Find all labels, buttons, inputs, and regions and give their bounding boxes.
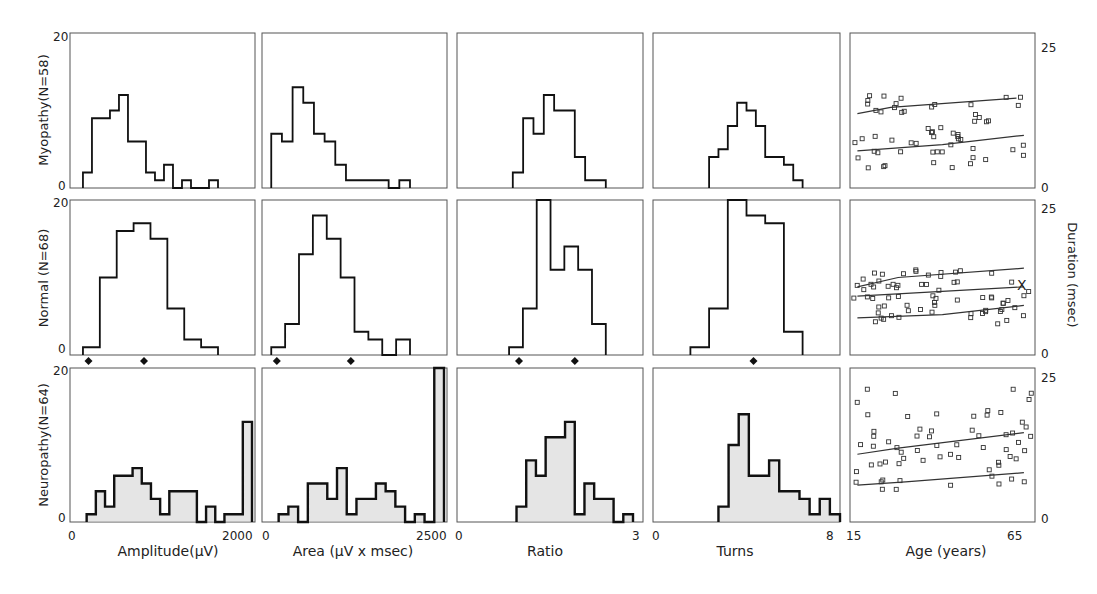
right-axis-label: Duration (msec) <box>1065 222 1080 327</box>
range-marker-icon <box>140 357 148 365</box>
y-tick-20-row1: 20 <box>53 30 68 44</box>
y-tick-0-row3: 0 <box>58 511 66 525</box>
x-label-turns: Turns <box>716 543 754 559</box>
panel-normal-turns <box>653 200 840 365</box>
panel-neuropathy-turns <box>653 368 840 522</box>
panel-myopathy-ratio <box>457 33 643 188</box>
right-tick-25-row1: 25 <box>1041 41 1056 55</box>
panel-normal-ratio <box>457 200 643 365</box>
range-marker-icon <box>750 357 758 365</box>
histogram-grid-figure: Myopathy(N=58) Normal (N=68) Neuropathy(… <box>0 0 1097 594</box>
right-tick-0-row1: 0 <box>1041 181 1049 195</box>
y-tick-20-row3: 20 <box>53 364 68 378</box>
range-marker-icon <box>85 357 93 365</box>
panel-neuropathy-age <box>850 368 1035 522</box>
panel-neuropathy-ratio <box>457 368 643 522</box>
panel-normal-amplitude <box>70 200 255 365</box>
panel-neuropathy-amplitude <box>70 368 255 522</box>
panel-normal-area <box>262 200 447 365</box>
x-tick-age-max: 65 <box>1007 529 1022 543</box>
panel-myopathy-turns <box>653 33 840 188</box>
range-marker-icon <box>347 357 355 365</box>
x-tick-turns-max: 8 <box>826 529 834 543</box>
x-tick-ratio-min: 0 <box>455 529 463 543</box>
x-label-ratio: Ratio <box>527 543 563 559</box>
y-tick-0-row2: 0 <box>58 342 66 356</box>
panel-myopathy-amplitude <box>70 33 255 188</box>
row-label-neuropathy: Neuropathy(N=64) <box>36 383 51 507</box>
row-label-normal: Normal (N=68) <box>36 229 51 327</box>
range-marker-icon <box>515 357 523 365</box>
range-marker-icon <box>273 357 281 365</box>
panel-normal-age <box>850 200 1035 355</box>
x-tick-area-max: 2500 <box>416 529 447 543</box>
x-tick-age-min: 15 <box>846 529 861 543</box>
y-tick-20-row2: 20 <box>53 196 68 210</box>
right-tick-0-row2: 0 <box>1041 347 1049 361</box>
panel-myopathy-age <box>850 33 1035 188</box>
x-tick-amp-min: 0 <box>68 529 76 543</box>
x-label-age: Age (years) <box>906 543 987 559</box>
row-label-myopathy: Myopathy(N=58) <box>36 54 51 165</box>
range-marker-icon <box>571 357 579 365</box>
x-tick-area-min: 0 <box>262 529 270 543</box>
right-tick-25-row2: 25 <box>1041 202 1056 216</box>
normal-x-marker: X <box>1017 277 1027 293</box>
y-tick-0-row1: 0 <box>58 179 66 193</box>
x-tick-amp-max: 2000 <box>222 529 253 543</box>
x-label-area: Area (µV x msec) <box>293 543 414 559</box>
x-tick-ratio-max: 3 <box>632 529 640 543</box>
panel-myopathy-area <box>262 33 447 188</box>
x-tick-turns-min: 0 <box>652 529 660 543</box>
panel-neuropathy-area <box>262 368 447 522</box>
right-tick-0-row3: 0 <box>1041 512 1049 526</box>
right-tick-25-row3: 25 <box>1041 371 1056 385</box>
x-label-amplitude: Amplitude(µV) <box>117 543 218 559</box>
